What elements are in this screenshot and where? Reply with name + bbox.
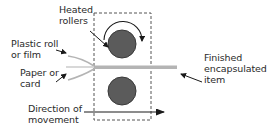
finished-item-leader-icon xyxy=(181,74,202,82)
plastic-film-bottom-sheet xyxy=(68,69,94,80)
top-heated-roller xyxy=(108,30,136,58)
plastic-roll-label: Plastic roll or film xyxy=(11,38,58,60)
encapsulated-sheet xyxy=(94,66,177,70)
heated-rollers-label: Heated rollers xyxy=(59,4,93,26)
finished-item-label: Finished encapsulated item xyxy=(204,52,267,85)
paper-card-label: Paper or card xyxy=(20,67,59,89)
plastic-film-top-sheet xyxy=(68,56,94,66)
bottom-heated-roller xyxy=(108,77,136,105)
direction-label: Direction of movement xyxy=(28,103,82,125)
laminator-diagram: Heated rollers Plastic roll or film Pape… xyxy=(0,0,270,134)
